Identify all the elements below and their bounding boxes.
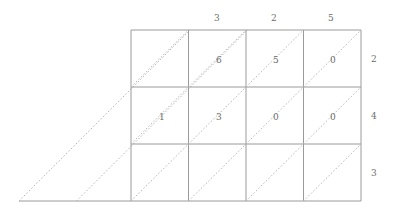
row-header-2: 4	[371, 111, 377, 121]
column-header-3: 2	[271, 13, 277, 23]
cell-value-r1c3: 5	[273, 55, 279, 65]
cell-value-r2c1: 1	[159, 112, 165, 122]
cell-value-r2c2: 3	[216, 112, 222, 122]
grid-drawing	[0, 0, 395, 209]
cell-value-r2c4: 0	[330, 112, 336, 122]
extension-diagonals	[19, 30, 248, 201]
row-header-3: 3	[371, 168, 377, 178]
cell-value-r2c3: 0	[273, 112, 279, 122]
vertical-grid-lines	[131, 30, 361, 201]
row-header-1: 2	[371, 54, 377, 64]
cell-value-r1c2: 6	[216, 55, 222, 65]
column-header-4: 5	[328, 13, 334, 23]
cell-value-r1c4: 0	[330, 55, 336, 65]
diagram-canvas: 3 2 5 2 4 3 6 5 0 1 3 0 0	[0, 0, 395, 209]
column-header-2: 3	[214, 13, 220, 23]
